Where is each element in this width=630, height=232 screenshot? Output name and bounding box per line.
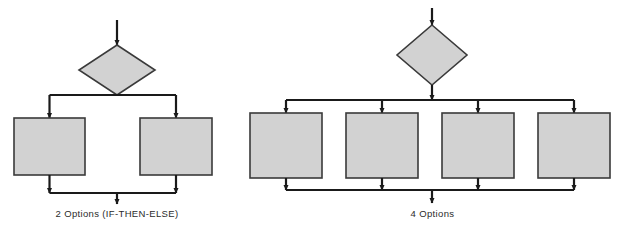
caption-two-options: 2 Options (IF-THEN-ELSE)	[0, 208, 234, 219]
flowchart-graphic	[0, 0, 630, 232]
diagram-four-options	[250, 8, 610, 203]
process-box-four-options-4[interactable]	[538, 113, 610, 178]
process-box-four-options-1[interactable]	[250, 113, 322, 178]
diagram-two-options	[14, 20, 212, 204]
process-box-four-options-2[interactable]	[346, 113, 418, 178]
decision-diamond-four-options[interactable]	[397, 25, 467, 85]
process-box-two-options-2[interactable]	[140, 118, 212, 175]
process-box-four-options-3[interactable]	[442, 113, 514, 178]
figure-canvas: 2 Options (IF-THEN-ELSE) 4 Options	[0, 0, 630, 232]
process-box-two-options-1[interactable]	[14, 118, 85, 175]
decision-diamond-two-options[interactable]	[79, 45, 155, 95]
caption-four-options: 4 Options	[310, 208, 555, 219]
